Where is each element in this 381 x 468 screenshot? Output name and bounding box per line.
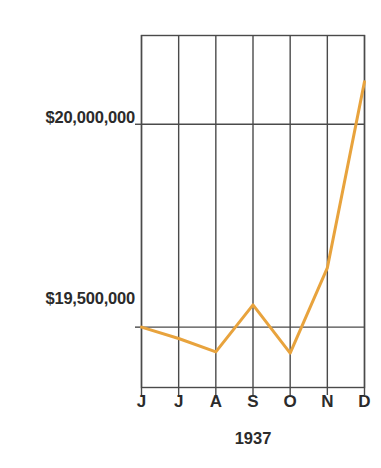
x-axis-tick-label-1: J xyxy=(164,393,194,410)
x-axis-tick-label-4: O xyxy=(275,393,305,410)
x-axis-tick-label-6: D xyxy=(350,393,380,410)
line-chart-figure: $20,000,000 $19,500,000 JJASOND 1937 xyxy=(0,0,381,468)
x-axis-tick-labels: JJASOND xyxy=(141,393,365,419)
x-axis-tick-label-3: S xyxy=(238,393,268,410)
gridlines xyxy=(141,35,365,388)
x-axis-caption: 1937 xyxy=(141,430,365,447)
x-axis-tick-label-2: A xyxy=(201,393,231,410)
y-axis-tick-label-19500000: $19,500,000 xyxy=(45,290,135,307)
plot-area xyxy=(141,35,365,388)
y-axis-tick-label-20000000: $20,000,000 xyxy=(45,109,135,126)
chart-grid-and-series xyxy=(141,35,365,388)
x-axis-tick-label-0: J xyxy=(127,393,157,410)
x-axis-tick-label-5: N xyxy=(312,393,342,410)
